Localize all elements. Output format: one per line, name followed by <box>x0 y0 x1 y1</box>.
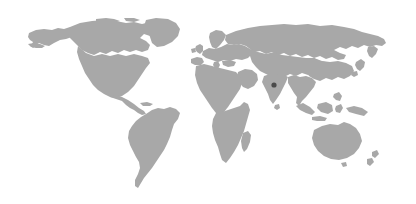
india-location-marker[interactable] <box>271 82 276 87</box>
world-map-svg <box>0 0 416 204</box>
marker-group <box>271 82 276 87</box>
world-map-container <box>0 0 416 204</box>
